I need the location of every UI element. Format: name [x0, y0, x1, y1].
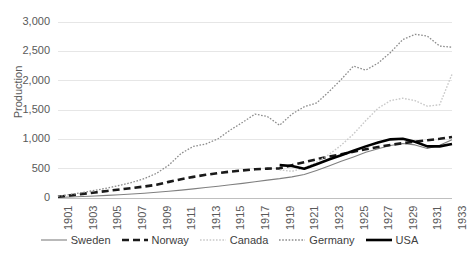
legend-item-usa[interactable]: USA — [366, 234, 419, 246]
legend-swatch-norway-icon — [122, 235, 148, 245]
legend-label: Canada — [230, 234, 269, 246]
legend-label: Norway — [152, 234, 189, 246]
x-tick-label: 1909 — [161, 206, 173, 230]
legend-label: Germany — [309, 234, 354, 246]
x-tick-label: 1925 — [358, 206, 370, 230]
x-tick-label: 1919 — [284, 206, 296, 230]
x-tick-label: 1913 — [210, 206, 222, 230]
legend-item-norway[interactable]: Norway — [122, 234, 189, 246]
series-line-canada — [280, 74, 452, 171]
legend-label: USA — [396, 234, 419, 246]
series-line-germany — [58, 34, 452, 196]
x-tick-label: 1927 — [382, 206, 394, 230]
legend-label: Sweden — [71, 234, 111, 246]
x-tick-label: 1903 — [87, 206, 99, 230]
x-tick-label: 1929 — [407, 206, 419, 230]
legend-item-germany[interactable]: Germany — [279, 234, 354, 246]
x-tick-label: 1917 — [259, 206, 271, 230]
x-tick-label: 1931 — [431, 206, 443, 230]
legend-swatch-usa-icon — [366, 235, 392, 245]
series-line-usa — [280, 139, 452, 169]
x-tick-label: 1933 — [456, 206, 468, 230]
legend-swatch-canada-icon — [200, 235, 226, 245]
legend-swatch-germany-icon — [279, 235, 305, 245]
legend-swatch-sweden-icon — [41, 235, 67, 245]
x-tick-label: 1905 — [111, 206, 123, 230]
x-tick-label: 1901 — [62, 206, 74, 230]
x-tick-label: 1911 — [185, 206, 197, 230]
x-tick-label: 1921 — [308, 206, 320, 230]
x-tick-label: 1923 — [333, 206, 345, 230]
legend-item-sweden[interactable]: Sweden — [41, 234, 111, 246]
series-line-norway — [58, 137, 452, 197]
x-tick-label: 1907 — [136, 206, 148, 230]
chart-legend: SwedenNorwayCanadaGermanyUSA — [0, 234, 459, 246]
legend-item-canada[interactable]: Canada — [200, 234, 269, 246]
x-tick-label: 1915 — [234, 206, 246, 230]
